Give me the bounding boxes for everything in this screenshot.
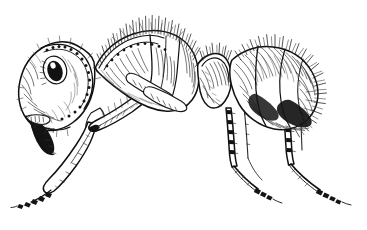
ant-illustration-figure: Ant, lateral view bbox=[0, 0, 367, 230]
ant-lateral-view-drawing bbox=[0, 0, 367, 230]
